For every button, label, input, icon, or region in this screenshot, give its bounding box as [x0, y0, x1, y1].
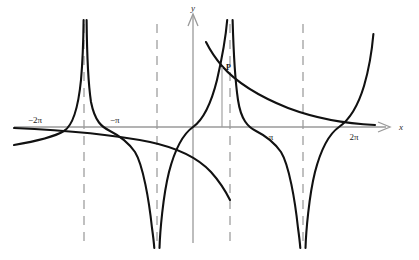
x-tick-label-neg-pi: −π	[110, 115, 120, 125]
tan-branch-5	[306, 34, 374, 248]
tan-curve-group	[14, 20, 373, 248]
graph-figure: −2π −π π 2π y x P	[0, 0, 419, 260]
x-tick-label-pi: π	[269, 132, 274, 142]
x-tick-label-2pi: 2π	[349, 132, 359, 142]
plot-canvas: −2π −π π 2π y x P	[0, 0, 419, 260]
y-axis-label: y	[190, 3, 195, 13]
x-axis-label: x	[398, 122, 403, 132]
reciprocal-branch-positive	[206, 42, 375, 125]
reciprocal-curve-group	[14, 42, 375, 200]
tan-branch-4	[233, 20, 301, 248]
tan-branch-1	[14, 20, 84, 145]
x-tick-label-neg-2pi: −2π	[28, 115, 43, 125]
point-p-label: P	[226, 63, 231, 72]
